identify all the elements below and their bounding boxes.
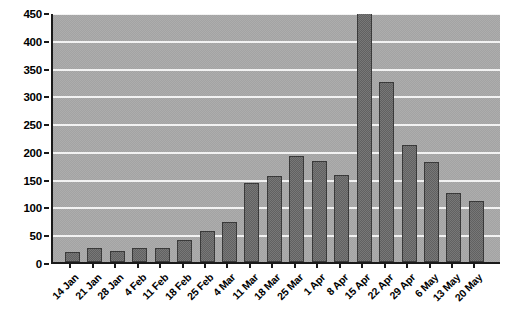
y-tick-mark [44, 263, 49, 265]
bar [424, 162, 439, 262]
bar [334, 175, 349, 262]
bar-chart: 050100150200250300350400450 14 Jan21 Jan… [0, 0, 515, 323]
x-tick-mark [92, 264, 94, 268]
x-tick-mark [226, 264, 228, 268]
bar [110, 251, 125, 262]
bar [446, 193, 461, 262]
bar [87, 248, 102, 262]
x-tick-mark [249, 264, 251, 268]
y-tick-label: 400 [23, 36, 42, 48]
bar [132, 248, 147, 262]
y-tick-label: 450 [23, 8, 42, 20]
y-tick-mark [44, 41, 49, 43]
x-tick-mark [361, 264, 363, 268]
y-tick-label: 50 [30, 230, 42, 242]
x-tick-mark [159, 264, 161, 268]
y-tick-label: 250 [23, 119, 42, 131]
bar [402, 145, 417, 262]
x-tick-mark [69, 264, 71, 268]
y-tick-mark [44, 96, 49, 98]
x-tick-mark [451, 264, 453, 268]
bars-series [53, 14, 500, 262]
x-tick-mark [137, 264, 139, 268]
bar [357, 14, 372, 262]
y-tick-label: 300 [23, 91, 42, 103]
y-tick-mark [44, 152, 49, 154]
x-tick-mark [204, 264, 206, 268]
x-tick-mark [429, 264, 431, 268]
bar [379, 82, 394, 262]
plot-area [51, 14, 500, 264]
x-tick-mark [339, 264, 341, 268]
x-tick-mark [384, 264, 386, 268]
y-tick-mark [44, 13, 49, 15]
bar [469, 201, 484, 262]
bar [222, 222, 237, 262]
y-tick-label: 0 [36, 258, 42, 270]
x-tick-mark [114, 264, 116, 268]
bar [244, 183, 259, 262]
bar [267, 176, 282, 262]
x-tick-mark [182, 264, 184, 268]
x-tick-mark [294, 264, 296, 268]
y-tick-label: 100 [23, 202, 42, 214]
bar [155, 248, 170, 262]
x-tick-mark [316, 264, 318, 268]
y-tick-mark [44, 180, 49, 182]
y-tick-label: 200 [23, 147, 42, 159]
bar [177, 240, 192, 262]
x-axis: 14 Jan21 Jan28 Jan4 Feb11 Feb18 Feb25 Fe… [51, 264, 500, 323]
x-tick-mark [473, 264, 475, 268]
y-tick-mark [44, 69, 49, 71]
x-tick-mark [406, 264, 408, 268]
y-tick-label: 350 [23, 64, 42, 76]
y-axis: 050100150200250300350400450 [0, 0, 51, 278]
y-tick-label: 150 [23, 175, 42, 187]
x-tick-mark [271, 264, 273, 268]
y-tick-mark [44, 235, 49, 237]
bar [65, 252, 80, 262]
y-tick-mark [44, 124, 49, 126]
y-tick-mark [44, 207, 49, 209]
bar [200, 231, 215, 262]
bar [312, 161, 327, 262]
bar [289, 156, 304, 262]
